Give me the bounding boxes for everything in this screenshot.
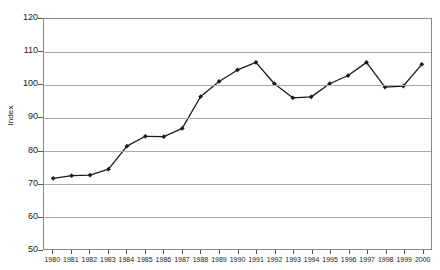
x-axis-tick-mark [386,250,387,254]
y-axis-tick-label: 80 [14,146,38,155]
data-point-marker [143,134,148,139]
series-line-index [44,19,431,249]
x-axis-tick-mark [108,250,109,254]
gridline [44,217,431,218]
x-axis-tick-label: 2000 [408,256,438,263]
x-axis-tick-mark [275,250,276,254]
y-axis-tick-mark [38,84,43,85]
y-axis-tick-labels: 1201101009080706050 [12,0,38,270]
gridline [44,85,431,86]
line-chart: Index 1201101009080706050 19801981198219… [0,0,440,270]
x-axis-tick-mark [219,250,220,254]
y-axis-tick-mark [38,18,43,19]
x-axis-tick-mark [182,250,183,254]
y-axis-tick-mark [38,51,43,52]
x-axis-tick-mark [330,250,331,254]
x-axis-tick-mark [367,250,368,254]
y-axis-tick-mark [38,250,43,251]
series-polyline [53,62,422,178]
x-axis-tick-mark [256,250,257,254]
data-point-marker [51,176,56,181]
x-axis-tick-mark [312,250,313,254]
data-point-marker [69,173,74,178]
x-axis-tick-mark [145,250,146,254]
y-axis-tick-label: 120 [14,13,38,22]
y-axis-tick-label: 100 [14,79,38,88]
y-axis-tick-label: 50 [14,245,38,254]
plot-area [43,18,432,250]
y-axis-tick-mark [38,217,43,218]
x-axis-tick-mark [200,250,201,254]
gridline [44,118,431,119]
data-point-marker [88,173,93,178]
gridline [44,184,431,185]
x-axis-tick-mark [126,250,127,254]
y-axis-tick-mark [38,117,43,118]
data-point-marker [161,134,166,139]
y-axis-tick-label: 110 [14,46,38,55]
x-axis-tick-mark [89,250,90,254]
y-axis-tick-mark [38,151,43,152]
gridline [44,151,431,152]
x-axis-tick-mark [293,250,294,254]
y-axis-tick-label: 60 [14,212,38,221]
x-axis-tick-mark [71,250,72,254]
x-axis-tick-mark [349,250,350,254]
y-axis-tick-mark [38,184,43,185]
gridline [44,52,431,53]
x-axis-tick-mark [238,250,239,254]
x-axis-tick-mark [52,250,53,254]
x-axis-tick-mark [163,250,164,254]
y-axis-tick-label: 70 [14,179,38,188]
x-axis-tick-mark [404,250,405,254]
x-axis-tick-mark [423,250,424,254]
y-axis-tick-label: 90 [14,112,38,121]
